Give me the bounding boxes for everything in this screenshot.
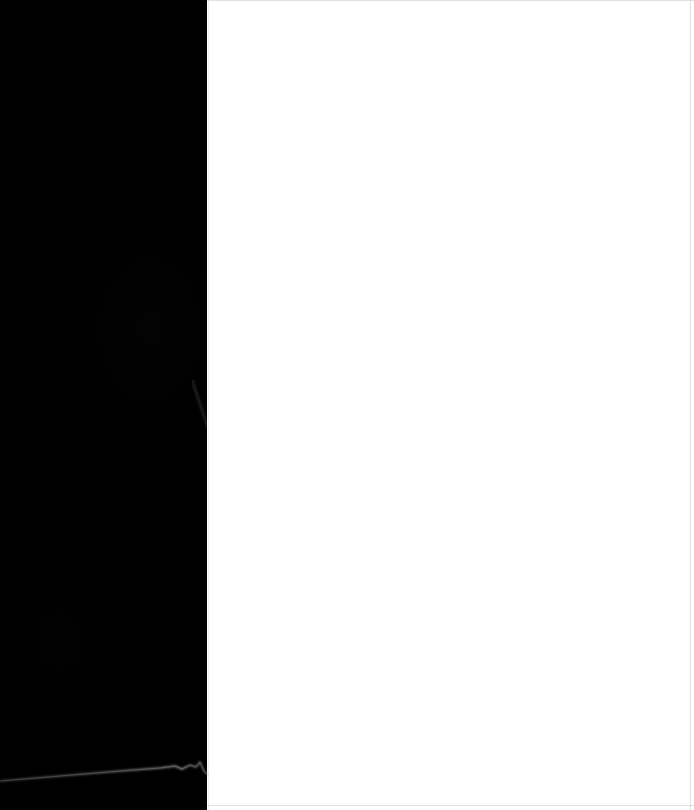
light-panel (207, 0, 694, 810)
light-panel-top-edge (207, 0, 694, 1)
light-panel-bottom-edge (207, 805, 694, 806)
dark-panel (0, 0, 207, 810)
light-panel-left-edge (208, 0, 209, 810)
light-panel-right-edge (690, 0, 691, 810)
screenshot-frame (0, 0, 694, 810)
